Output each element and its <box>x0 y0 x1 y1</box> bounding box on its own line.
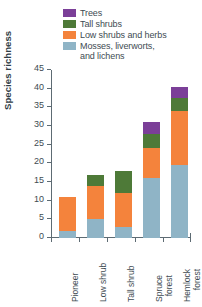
y-tick-label: 5 <box>39 212 44 222</box>
y-tick: 5 <box>47 218 51 219</box>
y-tick: 30 <box>47 125 51 126</box>
bar <box>115 171 132 238</box>
bar <box>143 122 160 238</box>
y-tick-label: 15 <box>34 175 44 185</box>
x-tick-label: Spruce forest <box>155 275 174 302</box>
y-tick-label: 30 <box>34 119 44 129</box>
bar-segment <box>115 171 132 193</box>
x-tick-label: Hemlock forest <box>183 269 202 302</box>
bar-segment <box>59 231 76 238</box>
bar <box>59 197 76 238</box>
y-tick-label: 45 <box>34 63 44 73</box>
bar <box>87 175 104 238</box>
bar-segment <box>87 175 104 186</box>
legend-item: Tall shrubs <box>63 19 202 29</box>
bar-segment <box>171 98 188 111</box>
legend-item: Mosses, liverworts, and lichens <box>63 41 202 61</box>
y-axis-line <box>51 70 52 239</box>
legend-swatch-icon <box>63 20 76 28</box>
bar-segment <box>171 111 188 165</box>
legend-swatch-icon <box>63 42 76 50</box>
legend-item: Low shrubs and herbs <box>63 30 202 40</box>
bar-segment <box>115 227 132 238</box>
bar-segment <box>143 178 160 238</box>
bar-segment <box>87 186 104 220</box>
x-tick-label: Low shrub <box>99 263 109 302</box>
y-tick: 35 <box>47 106 51 107</box>
y-tick: 40 <box>47 88 51 89</box>
chart-legend: TreesTall shrubsLow shrubs and herbsMoss… <box>63 8 202 62</box>
bar-segment <box>171 165 188 238</box>
legend-swatch-icon <box>63 31 76 39</box>
legend-item-label: Mosses, liverworts, and lichens <box>80 41 155 61</box>
bar-segment <box>171 87 188 98</box>
y-tick-label: 10 <box>34 194 44 204</box>
legend-swatch-icon <box>63 9 76 17</box>
legend-item-label: Low shrubs and herbs <box>80 30 167 40</box>
x-tick-label: Tall shrub <box>127 266 137 302</box>
legend-item-label: Tall shrubs <box>80 19 122 29</box>
bar-segment <box>87 219 104 238</box>
y-tick-label: 20 <box>34 156 44 166</box>
x-tick-label: Pioneer <box>71 273 81 302</box>
plot-area: 051015202530354045 <box>51 70 191 238</box>
legend-item-label: Trees <box>80 8 102 18</box>
bar <box>171 87 188 238</box>
y-tick: 15 <box>47 181 51 182</box>
y-tick: 10 <box>47 200 51 201</box>
y-tick: 25 <box>47 144 51 145</box>
y-tick-label: 0 <box>39 231 44 241</box>
y-tick: 45 <box>47 69 51 70</box>
bar-segment <box>143 122 160 133</box>
x-axis-labels: PioneerLow shrubTall shrubSpruce forestH… <box>51 240 191 306</box>
bar-segment <box>59 197 76 231</box>
bar-segment <box>115 193 132 227</box>
y-tick-label: 25 <box>34 138 44 148</box>
bar-segment <box>143 134 160 149</box>
legend-item: Trees <box>63 8 202 18</box>
y-tick-label: 35 <box>34 100 44 110</box>
figure: TreesTall shrubsLow shrubs and herbsMoss… <box>0 0 202 307</box>
bar-segment <box>143 148 160 178</box>
y-axis-title: Species richness <box>2 31 13 110</box>
y-tick-label: 40 <box>34 82 44 92</box>
y-tick: 20 <box>47 162 51 163</box>
